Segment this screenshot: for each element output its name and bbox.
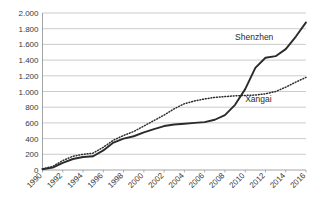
x-tick-label: 2010 [228, 171, 247, 190]
y-tick-labels: 02004006008001.0001.2001.4001.6001.8002.… [18, 9, 39, 175]
x-tick-label: 1996 [86, 171, 105, 190]
y-tick-label: 1.600 [18, 40, 39, 49]
line-chart: 02004006008001.0001.2001.4001.6001.8002.… [0, 0, 320, 212]
x-tick-label: 2004 [167, 171, 186, 190]
y-tick-label: 1.800 [18, 25, 39, 34]
y-tick-label: 2.000 [18, 9, 39, 18]
y-tick-label: 600 [25, 119, 39, 128]
series-label-xangai: Xangai [245, 94, 272, 104]
x-axis [43, 170, 307, 173]
x-tick-label: 2000 [126, 171, 145, 190]
x-tick-label: 1992 [45, 171, 64, 190]
x-tick-label: 2006 [187, 171, 206, 190]
series-label-shenzhen: Shenzhen [235, 32, 274, 42]
x-tick-label: 2014 [268, 171, 287, 190]
y-tick-label: 800 [25, 103, 39, 112]
chart-canvas: 02004006008001.0001.2001.4001.6001.8002.… [0, 0, 320, 212]
x-tick-label: 1994 [66, 171, 85, 190]
x-tick-label: 2016 [288, 171, 307, 190]
series-labels: ShenzhenXangai [235, 32, 274, 104]
y-tick-label: 1.000 [18, 88, 39, 97]
y-tick-label: 400 [25, 135, 39, 144]
x-tick-label: 2008 [207, 171, 226, 190]
y-tick-label: 1.400 [18, 56, 39, 65]
x-tick-label: 1990 [25, 171, 44, 190]
x-tick-labels: 1990199219941996199820002002200420062008… [25, 171, 308, 190]
x-tick-label: 2012 [248, 171, 267, 190]
x-tick-label: 1998 [106, 171, 125, 190]
y-tick-label: 1.200 [18, 72, 39, 81]
x-tick-label: 2002 [147, 171, 166, 190]
y-tick-label: 200 [25, 150, 39, 159]
